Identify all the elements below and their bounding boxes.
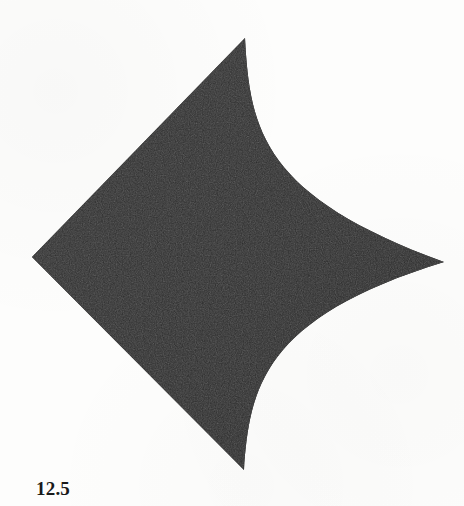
- figure-illustration: [0, 0, 464, 506]
- figure-page: 12.5: [0, 0, 464, 506]
- figure-caption: 12.5: [36, 479, 70, 499]
